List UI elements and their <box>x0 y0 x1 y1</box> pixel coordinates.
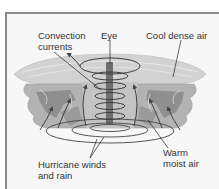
label-warm-line1: Warm <box>163 147 199 158</box>
label-warm-line2: moist air <box>163 158 199 169</box>
label-eye: Eye <box>101 30 117 41</box>
surface-winds <box>46 119 174 143</box>
label-hurricane-winds-line1: Hurricane winds <box>38 159 106 170</box>
label-convection-currents: Convection currents <box>38 30 86 52</box>
label-cool-dense-air: Cool dense air <box>146 30 207 41</box>
label-hurricane-winds-line2: and rain <box>38 170 106 181</box>
label-warm-moist-air: Warm moist air <box>163 147 199 169</box>
label-convection-line2: currents <box>38 41 86 52</box>
label-convection-line1: Convection <box>38 30 86 41</box>
label-hurricane-winds: Hurricane winds and rain <box>38 159 106 181</box>
